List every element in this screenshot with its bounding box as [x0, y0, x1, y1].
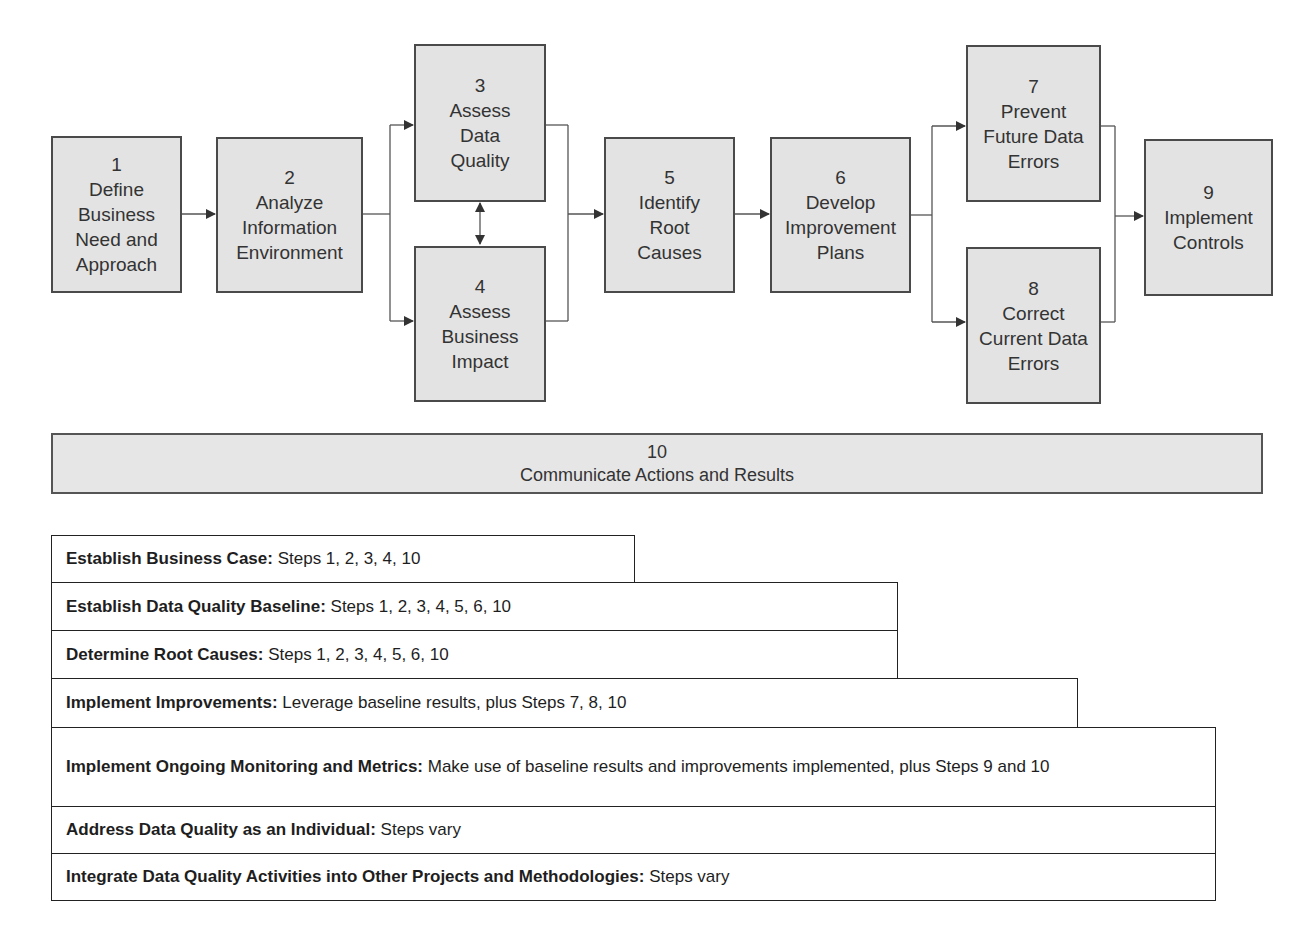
- step-number: 4: [475, 274, 486, 299]
- approach-row-business-case: Establish Business Case: Steps 1, 2, 3, …: [51, 535, 635, 583]
- step-6-develop-improvement-plans: 6 Develop Improvement Plans: [770, 137, 911, 293]
- step-2-analyze-information-environment: 2 Analyze Information Environment: [216, 137, 363, 293]
- approach-steps: Make use of baseline results and improve…: [428, 757, 1050, 776]
- approach-title: Implement Ongoing Monitoring and Metrics…: [66, 757, 423, 776]
- approach-row-root-causes: Determine Root Causes: Steps 1, 2, 3, 4,…: [51, 630, 898, 679]
- step-1-define-business-need: 1 Define Business Need and Approach: [51, 136, 182, 293]
- approach-title: Integrate Data Quality Activities into O…: [66, 867, 644, 886]
- step-4-assess-business-impact: 4 Assess Business Impact: [414, 246, 546, 402]
- approach-title: Determine Root Causes:: [66, 645, 263, 664]
- approach-row-dq-baseline: Establish Data Quality Baseline: Steps 1…: [51, 582, 898, 631]
- approach-title: Establish Business Case:: [66, 549, 273, 568]
- step-7-prevent-future-data-errors: 7 Prevent Future Data Errors: [966, 45, 1101, 202]
- approach-steps: Leverage baseline results, plus Steps 7,…: [282, 693, 626, 712]
- step-number: 6: [835, 165, 846, 190]
- step-label: Prevent Future Data Errors: [983, 99, 1083, 174]
- step-number: 2: [284, 165, 295, 190]
- step-number: 9: [1203, 180, 1214, 205]
- step-number: 3: [475, 73, 486, 98]
- approach-row-integrate: Integrate Data Quality Activities into O…: [51, 853, 1216, 901]
- step-label: Identify Root Causes: [637, 190, 701, 265]
- step-label: Define Business Need and Approach: [75, 177, 157, 277]
- approach-row-improvements: Implement Improvements: Leverage baselin…: [51, 678, 1078, 728]
- step-label: Develop Improvement Plans: [785, 190, 896, 265]
- band-number: 10: [647, 441, 667, 464]
- step-number: 1: [111, 152, 122, 177]
- approach-steps: Steps vary: [381, 820, 461, 839]
- step-number: 5: [664, 165, 675, 190]
- step-label: Assess Data Quality: [449, 98, 510, 173]
- approach-steps: Steps vary: [649, 867, 729, 886]
- band-label: Communicate Actions and Results: [520, 464, 794, 487]
- step-3-assess-data-quality: 3 Assess Data Quality: [414, 44, 546, 202]
- step-number: 8: [1028, 276, 1039, 301]
- approach-row-individual: Address Data Quality as an Individual: S…: [51, 806, 1216, 854]
- approach-steps: Steps 1, 2, 3, 4, 5, 6, 10: [268, 645, 449, 664]
- step-9-implement-controls: 9 Implement Controls: [1144, 139, 1273, 296]
- approach-title: Establish Data Quality Baseline:: [66, 597, 326, 616]
- approach-title: Implement Improvements:: [66, 693, 278, 712]
- step-label: Assess Business Impact: [441, 299, 518, 374]
- step-label: Implement Controls: [1164, 205, 1253, 255]
- approach-row-monitoring: Implement Ongoing Monitoring and Metrics…: [51, 727, 1216, 807]
- step-5-identify-root-causes: 5 Identify Root Causes: [604, 137, 735, 293]
- approach-steps: Steps 1, 2, 3, 4, 5, 6, 10: [331, 597, 512, 616]
- step-number: 7: [1028, 74, 1039, 99]
- step-label: Analyze Information Environment: [236, 190, 343, 265]
- step-label: Correct Current Data Errors: [979, 301, 1088, 376]
- step-8-correct-current-data-errors: 8 Correct Current Data Errors: [966, 247, 1101, 404]
- approach-title: Address Data Quality as an Individual:: [66, 820, 376, 839]
- step-10-communicate-band: 10 Communicate Actions and Results: [51, 433, 1263, 494]
- approach-steps: Steps 1, 2, 3, 4, 10: [278, 549, 421, 568]
